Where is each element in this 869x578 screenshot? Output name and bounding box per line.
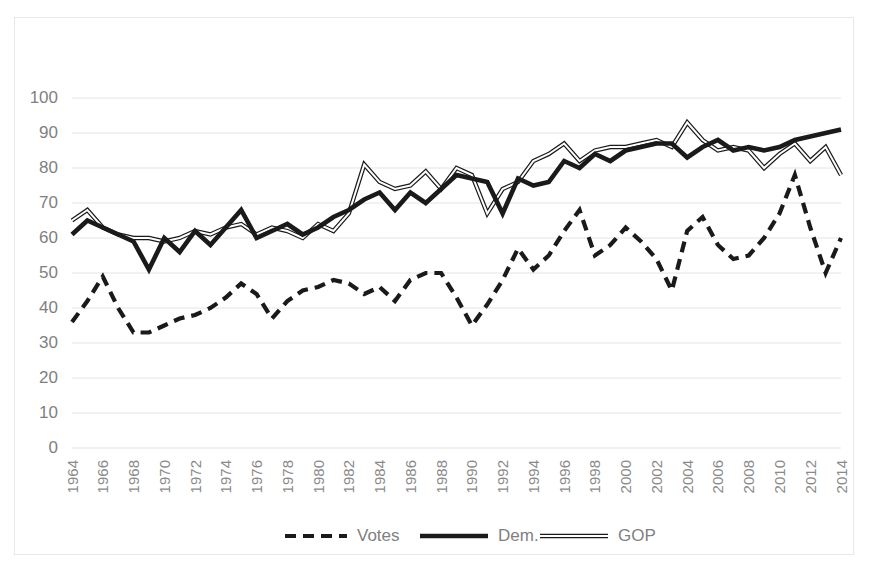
x-axis-tick-label: 1972 [187, 460, 204, 493]
series-line-votes [72, 175, 841, 333]
y-axis-tick-label: 30 [39, 333, 58, 352]
x-axis-tick-label: 2010 [771, 460, 788, 493]
y-axis-tick-label: 50 [39, 263, 58, 282]
x-axis-tick-labels: 1964196619681970197219741976197819801982… [64, 460, 850, 493]
x-axis-tick-label: 1976 [248, 460, 265, 493]
x-axis-tick-label: 1970 [156, 460, 173, 493]
x-axis-tick-label: 2000 [617, 460, 634, 493]
y-axis-tick-labels: 0102030405060708090100 [30, 88, 58, 457]
x-axis-tick-label: 1986 [402, 460, 419, 493]
chart-container: 0102030405060708090100 19641966196819701… [0, 0, 869, 578]
x-axis-tick-label: 1994 [525, 460, 542, 493]
series-line-gop-fill [72, 123, 841, 242]
chart-legend: VotesDem.GOP [285, 526, 656, 545]
legend-label-dem: Dem. [498, 526, 539, 545]
x-axis-tick-label: 1992 [494, 460, 511, 493]
y-axis-tick-label: 0 [49, 438, 58, 457]
y-axis-tick-label: 70 [39, 193, 58, 212]
legend-label-votes: Votes [357, 526, 400, 545]
x-axis-tick-label: 1998 [586, 460, 603, 493]
y-axis-tick-label: 90 [39, 123, 58, 142]
x-axis-tick-label: 1996 [556, 460, 573, 493]
x-axis-tick-label: 1978 [279, 460, 296, 493]
legend-label-gop: GOP [618, 526, 656, 545]
y-axis-tick-label: 80 [39, 158, 58, 177]
x-axis-tick-label: 1988 [433, 460, 450, 493]
x-axis-tick-label: 1990 [463, 460, 480, 493]
x-axis-tick-label: 1982 [340, 460, 357, 493]
y-axis-tick-label: 10 [39, 403, 58, 422]
x-axis-tick-label: 1966 [94, 460, 111, 493]
x-axis-tick-label: 2012 [802, 460, 819, 493]
x-axis-tick-label: 1964 [64, 460, 81, 493]
x-axis-tick-label: 2004 [679, 460, 696, 493]
data-series-group [72, 123, 841, 333]
line-chart-plot: 0102030405060708090100 19641966196819701… [0, 0, 869, 578]
series-line-gop-outline [72, 123, 841, 242]
y-axis-tick-label: 40 [39, 298, 58, 317]
y-axis-tick-label: 20 [39, 368, 58, 387]
x-axis-tick-label: 2002 [648, 460, 665, 493]
y-axis-tick-label: 60 [39, 228, 58, 247]
x-axis-tick-label: 2008 [740, 460, 757, 493]
x-axis-tick-label: 1974 [217, 460, 234, 493]
x-axis-tick-label: 2014 [833, 460, 850, 493]
x-axis-tick-label: 1968 [125, 460, 142, 493]
x-axis-tick-label: 1980 [310, 460, 327, 493]
x-axis-tick-label: 1984 [371, 460, 388, 493]
y-axis-tick-label: 100 [30, 88, 58, 107]
x-axis-tick-label: 2006 [709, 460, 726, 493]
